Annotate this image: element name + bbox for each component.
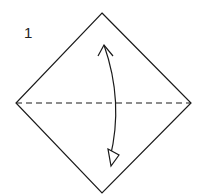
diagram-canvas xyxy=(0,0,203,195)
paper-square xyxy=(16,13,191,193)
fold-arrow-curve xyxy=(104,45,116,158)
arrow-head-bottom-icon xyxy=(108,149,119,166)
